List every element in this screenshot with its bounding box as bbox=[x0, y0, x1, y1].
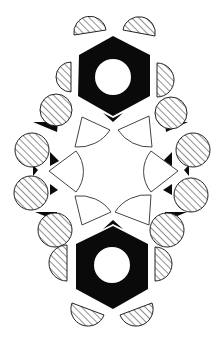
black-wedge bbox=[50, 152, 59, 166]
hatched-semicircle bbox=[155, 247, 172, 281]
white-sector bbox=[144, 151, 178, 192]
hatched-circle bbox=[40, 94, 72, 126]
black-wedge bbox=[50, 184, 58, 195]
hatched-semicircle bbox=[123, 17, 155, 36]
geometric-pattern-figure bbox=[0, 0, 221, 339]
hatched-semicircle bbox=[157, 63, 174, 97]
bottom-hexagon-hole bbox=[94, 247, 130, 283]
hatched-semicircle bbox=[49, 245, 67, 281]
hatched-circle bbox=[15, 133, 49, 167]
white-sector bbox=[75, 196, 111, 225]
hatched-semicircle bbox=[74, 16, 106, 35]
hatched-circle bbox=[38, 213, 72, 247]
white-sectors bbox=[49, 116, 178, 225]
hatched-circle bbox=[174, 178, 208, 212]
white-sector bbox=[75, 117, 110, 147]
white-sector bbox=[118, 116, 152, 147]
hatched-circle bbox=[14, 176, 48, 210]
hatched-circle bbox=[150, 213, 184, 247]
black-wedge bbox=[163, 184, 172, 195]
top-hexagon-hole bbox=[95, 59, 131, 95]
hatched-semicircle bbox=[56, 62, 71, 92]
white-sector bbox=[115, 195, 151, 225]
hatched-circle bbox=[155, 97, 187, 129]
hatched-semicircle bbox=[71, 303, 104, 326]
hexagons bbox=[76, 36, 150, 309]
hatched-circle bbox=[176, 133, 210, 167]
hatched-semicircle bbox=[120, 303, 153, 326]
